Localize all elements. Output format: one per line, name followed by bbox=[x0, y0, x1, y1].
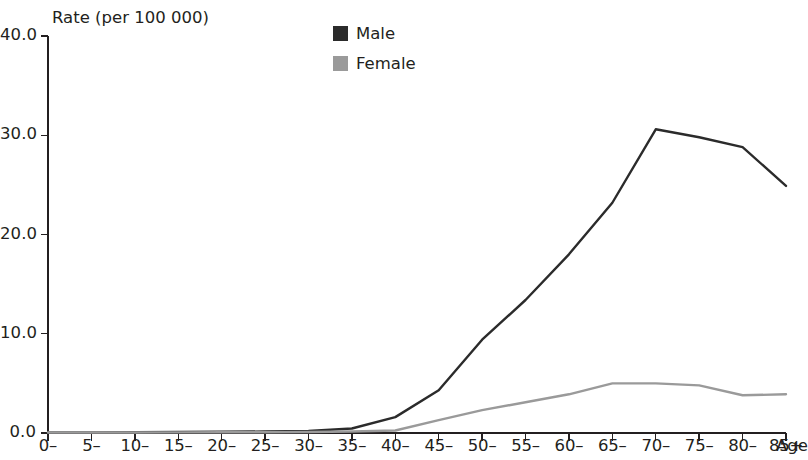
y-tick-label: 40.0 bbox=[0, 25, 36, 44]
y-tick-label: 10.0 bbox=[0, 323, 36, 342]
series-line-female bbox=[48, 383, 786, 432]
axes bbox=[41, 36, 786, 441]
data-series bbox=[48, 129, 786, 432]
x-tick-label: 85+ bbox=[761, 436, 808, 455]
series-line-male bbox=[48, 129, 786, 432]
y-tick-label: 20.0 bbox=[0, 224, 36, 243]
y-tick-label: 30.0 bbox=[0, 124, 36, 143]
plot-area bbox=[0, 0, 808, 460]
line-chart: Rate (per 100 000) Age Male Female 0.010… bbox=[0, 0, 808, 460]
